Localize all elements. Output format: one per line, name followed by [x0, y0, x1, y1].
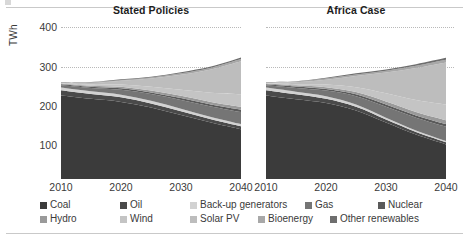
legend-swatch-backup-generators: [190, 202, 197, 209]
y-tick-300: 300: [24, 62, 57, 73]
chart-legend: Coal Oil Back-up generators Gas Nuclear …: [0, 199, 469, 229]
chart-figure: TWh 400 300 200 100 Stated Policies 2010…: [0, 0, 469, 239]
y-tick-100: 100: [24, 140, 57, 151]
x-tick-p2-2040: 2040: [429, 181, 463, 193]
legend-label-gas: Gas: [315, 199, 333, 210]
panel-title-stated-policies: Stated Policies: [61, 4, 241, 16]
legend-item-backup-generators[interactable]: Back-up generators: [190, 199, 287, 211]
legend-label-hydro: Hydro: [50, 213, 77, 224]
legend-swatch-other-renewables: [330, 216, 337, 223]
y-tick-200: 200: [24, 101, 57, 112]
x-tick-p2-2010: 2010: [249, 181, 283, 193]
legend-label-backup-generators: Back-up generators: [200, 199, 287, 210]
panel-stated-policies: Stated Policies: [61, 21, 241, 179]
legend-swatch-oil: [120, 202, 127, 209]
legend-label-nuclear: Nuclear: [388, 199, 422, 210]
x-tick-p2-2020: 2020: [309, 181, 343, 193]
legend-item-oil[interactable]: Oil: [120, 199, 142, 211]
legend-swatch-nuclear: [378, 202, 385, 209]
y-axis-label: TWh: [8, 24, 19, 46]
legend-swatch-bioenergy: [258, 216, 265, 223]
legend-swatch-hydro: [40, 216, 47, 223]
legend-swatch-coal: [40, 202, 47, 209]
legend-item-bioenergy[interactable]: Bioenergy: [258, 213, 313, 225]
legend-item-gas[interactable]: Gas: [305, 199, 333, 211]
legend-label-other-renewables: Other renewables: [340, 213, 419, 224]
legend-label-bioenergy: Bioenergy: [268, 213, 313, 224]
page-artifact-mark: [5, 0, 11, 5]
legend-label-oil: Oil: [130, 199, 142, 210]
legend-item-coal[interactable]: Coal: [40, 199, 71, 211]
x-tick-p1-2020: 2020: [104, 181, 138, 193]
y-tick-400: 400: [24, 22, 57, 33]
x-tick-p2-2030: 2030: [369, 181, 403, 193]
panel-title-africa-case: Africa Case: [266, 4, 446, 16]
legend-swatch-wind: [120, 216, 127, 223]
plot-area-africa-case: [266, 21, 446, 179]
x-tick-p1-2010: 2010: [44, 181, 78, 193]
legend-item-other-renewables[interactable]: Other renewables: [330, 213, 419, 225]
plot-area-stated-policies: [61, 21, 241, 179]
legend-label-coal: Coal: [50, 199, 71, 210]
legend-label-wind: Wind: [130, 213, 153, 224]
legend-item-nuclear[interactable]: Nuclear: [378, 199, 422, 211]
legend-item-solar-pv[interactable]: Solar PV: [190, 213, 239, 225]
legend-item-wind[interactable]: Wind: [120, 213, 153, 225]
legend-swatch-solar-pv: [190, 216, 197, 223]
x-tick-p1-2030: 2030: [164, 181, 198, 193]
panel-africa-case: Africa Case: [266, 21, 446, 179]
bottom-divider: [6, 233, 463, 234]
legend-item-hydro[interactable]: Hydro: [40, 213, 77, 225]
legend-label-solar-pv: Solar PV: [200, 213, 239, 224]
legend-swatch-gas: [305, 202, 312, 209]
